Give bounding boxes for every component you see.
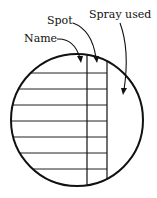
table-grid bbox=[0, 50, 107, 190]
label-spot: Spot bbox=[47, 14, 73, 27]
spray-record-diagram: Name Spot Spray used bbox=[0, 0, 157, 198]
spot-arrow bbox=[73, 23, 96, 58]
label-spray-used: Spray used bbox=[89, 8, 151, 21]
spray-used-arrowhead-icon bbox=[121, 88, 127, 95]
label-name: Name bbox=[24, 32, 57, 45]
circle-outline bbox=[11, 54, 143, 186]
row-lines bbox=[0, 73, 107, 169]
name-arrowhead-icon bbox=[77, 56, 83, 63]
spray-used-arrow bbox=[120, 23, 126, 90]
spot-arrowhead-icon bbox=[93, 56, 99, 63]
